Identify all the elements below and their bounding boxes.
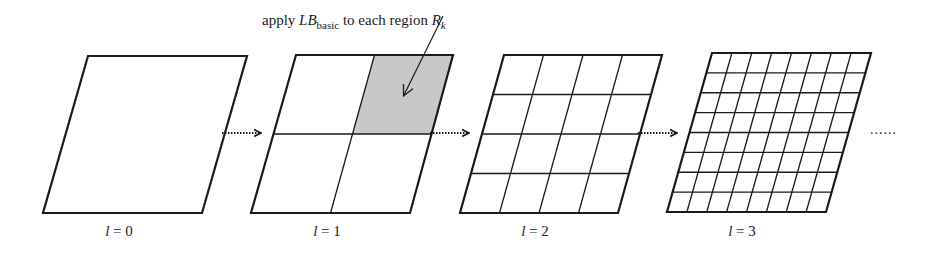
level-label: l = 0	[105, 223, 133, 239]
level-label: l = 2	[521, 223, 549, 239]
level-panel-0: l = 0	[43, 56, 247, 239]
diagram-canvas: apply LBbasic to each region Rk l = 0l =…	[0, 0, 943, 254]
level-panel-3: l = 3	[667, 53, 871, 239]
shaded-region	[353, 55, 454, 134]
annotation-label: apply LBbasic to each region Rk	[262, 12, 447, 31]
multilevel-grid-diagram: apply LBbasic to each region Rk l = 0l =…	[0, 0, 943, 254]
level-panel-1: l = 1	[251, 55, 453, 239]
level-panels: l = 0l = 1l = 2l = 3	[43, 53, 871, 239]
region-outline	[43, 56, 247, 213]
level-label: l = 3	[728, 223, 756, 239]
level-label: l = 1	[313, 223, 341, 239]
level-panel-2: l = 2	[460, 55, 662, 239]
continuation-ellipsis: ......	[870, 122, 897, 137]
